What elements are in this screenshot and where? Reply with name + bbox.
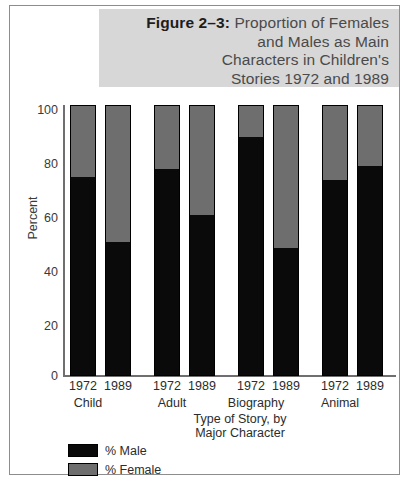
x-tick-animal-1989: 1989 xyxy=(350,379,390,393)
legend-row-female[interactable]: % Female xyxy=(68,461,161,478)
legend-label-female: % Female xyxy=(105,463,161,477)
chart-plot-area: Percent 100 80 60 40 20 0 1972 1989 1972… xyxy=(10,6,401,476)
legend-label-male: % Male xyxy=(105,444,147,458)
bar-biography-1989[interactable] xyxy=(273,105,299,376)
x-tick-child-1972: 1972 xyxy=(63,379,103,393)
x-tick-biography-1972: 1972 xyxy=(231,379,271,393)
bar-child-1972[interactable] xyxy=(70,105,96,376)
bar-segment-male xyxy=(239,137,263,375)
x-axis-title-line-2: Major Character xyxy=(130,426,350,440)
bar-adult-1972[interactable] xyxy=(154,105,180,376)
group-label-child: Child xyxy=(43,396,133,410)
x-tick-biography-1989: 1989 xyxy=(266,379,306,393)
bar-segment-male xyxy=(71,177,95,375)
bar-child-1989[interactable] xyxy=(105,105,131,376)
group-label-adult: Adult xyxy=(127,396,217,410)
x-tick-child-1989: 1989 xyxy=(98,379,138,393)
bar-biography-1972[interactable] xyxy=(238,105,264,376)
figure-frame: Figure 2–3: Proportion of Females and Ma… xyxy=(9,5,400,475)
bar-segment-male xyxy=(155,169,179,375)
bar-segment-male xyxy=(106,242,130,375)
bar-animal-1989[interactable] xyxy=(357,105,383,376)
x-axis-title: Type of Story, by Major Character xyxy=(130,412,350,440)
group-label-biography: Biography xyxy=(211,396,301,410)
x-axis-title-line-1: Type of Story, by xyxy=(130,412,350,426)
group-label-animal: Animal xyxy=(295,396,385,410)
bar-segment-male xyxy=(190,215,214,375)
x-tick-adult-1989: 1989 xyxy=(182,379,222,393)
legend-swatch-female-icon xyxy=(68,463,98,476)
bar-adult-1989[interactable] xyxy=(189,105,215,376)
chart-legend: % Male % Female xyxy=(68,442,161,480)
legend-row-male[interactable]: % Male xyxy=(68,442,161,459)
x-tick-animal-1972: 1972 xyxy=(315,379,355,393)
bar-segment-male xyxy=(358,166,382,375)
bar-animal-1972[interactable] xyxy=(322,105,348,376)
bar-segment-male xyxy=(274,248,298,375)
legend-swatch-male-icon xyxy=(68,444,98,457)
bar-segment-male xyxy=(323,180,347,375)
x-tick-adult-1972: 1972 xyxy=(147,379,187,393)
